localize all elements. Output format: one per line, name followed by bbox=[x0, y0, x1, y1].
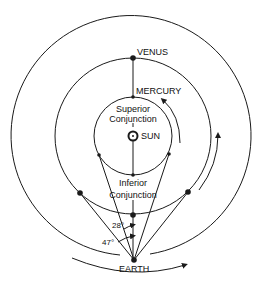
inferior-label-1: Inferior bbox=[103, 178, 163, 188]
angle-28-label: 28° bbox=[112, 221, 124, 231]
venus-dot bbox=[130, 55, 136, 61]
angle-47-label: 47° bbox=[102, 238, 114, 248]
mercury-label: MERCURY bbox=[136, 86, 181, 96]
venus-label: VENUS bbox=[137, 47, 168, 57]
inferior-label-2: Conjunction bbox=[103, 190, 163, 200]
mercury-dot bbox=[131, 95, 135, 99]
superior-label-1: Superior bbox=[103, 104, 163, 114]
venus-motion-arrow bbox=[199, 135, 218, 190]
orbit-diagram bbox=[0, 0, 268, 296]
earth-label: EARTH bbox=[119, 264, 149, 274]
sun-label: SUN bbox=[141, 131, 160, 141]
planetary-conjunction-diagram: VENUS MERCURY Superior Conjunction SUN I… bbox=[0, 0, 268, 296]
superior-label-2: Conjunction bbox=[103, 114, 163, 124]
earth-dot bbox=[131, 257, 137, 263]
earth-orbit bbox=[11, 16, 251, 255]
